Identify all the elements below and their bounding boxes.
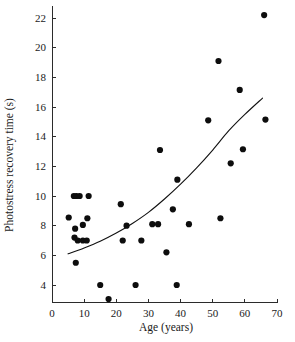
data-point [123, 223, 129, 229]
data-point [228, 160, 234, 166]
y-tick-label: 16 [35, 101, 47, 113]
data-point [205, 117, 211, 123]
x-tick-label: 0 [49, 307, 55, 319]
data-point [97, 282, 103, 288]
y-axis-ticks: 46810121416182022 [35, 12, 56, 291]
data-point [174, 282, 180, 288]
data-point [262, 117, 268, 123]
y-axis-title: Photostress recovery time (s) [3, 98, 16, 232]
chart-page: 46810121416182022 010203040506070 Age (y… [0, 0, 295, 342]
data-points-group [66, 12, 269, 302]
y-tick-label: 18 [35, 71, 47, 83]
data-point [72, 226, 78, 232]
data-point [138, 237, 144, 243]
x-tick-label: 70 [272, 307, 284, 319]
data-point [84, 215, 90, 221]
x-axis-ticks: 010203040506070 [49, 299, 283, 319]
data-point [155, 221, 161, 227]
data-point [240, 146, 246, 152]
data-point [80, 222, 86, 228]
data-point [215, 58, 221, 64]
y-tick-label: 8 [41, 219, 47, 231]
x-tick-label: 40 [175, 307, 187, 319]
data-point [120, 237, 126, 243]
x-tick-label: 50 [207, 307, 219, 319]
data-point [118, 201, 124, 207]
data-point [174, 177, 180, 183]
data-point [66, 214, 72, 220]
data-point [186, 221, 192, 227]
fit-curve-group [68, 98, 262, 254]
scatter-plot: 46810121416182022 010203040506070 Age (y… [0, 0, 295, 342]
y-tick-label: 4 [41, 279, 47, 291]
data-point [73, 260, 79, 266]
y-tick-label: 20 [35, 41, 47, 53]
fit-curve [68, 98, 262, 254]
data-point [132, 282, 138, 288]
data-point [261, 12, 267, 18]
data-point [217, 215, 223, 221]
x-tick-label: 30 [143, 307, 155, 319]
y-tick-label: 12 [35, 160, 46, 172]
x-tick-label: 10 [79, 307, 91, 319]
y-tick-label: 10 [35, 190, 47, 202]
data-point [163, 249, 169, 255]
data-point [77, 193, 83, 199]
data-point [149, 221, 155, 227]
data-point [170, 206, 176, 212]
data-point [84, 237, 90, 243]
plot-axes: 46810121416182022 010203040506070 [35, 6, 283, 319]
x-tick-label: 60 [239, 307, 251, 319]
y-tick-label: 6 [41, 249, 47, 261]
data-point [237, 87, 243, 93]
y-tick-label: 22 [35, 12, 46, 24]
x-tick-label: 20 [111, 307, 123, 319]
data-point [105, 296, 111, 302]
data-point [157, 147, 163, 153]
y-tick-label: 14 [35, 130, 47, 142]
x-axis-title: Age (years) [139, 321, 193, 334]
data-point [86, 193, 92, 199]
